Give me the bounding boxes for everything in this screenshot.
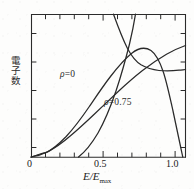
x-axis-title-main: E/E	[83, 170, 100, 182]
y-axis-minor-ticks-left	[32, 34, 37, 148]
rho-value-0: =0	[65, 69, 76, 79]
rho-value-1: =0.75	[109, 97, 132, 107]
x-tick-label-1-0: 1.0	[166, 158, 179, 169]
x-tick-label-0: 0	[27, 158, 32, 169]
data-curves	[31, 14, 186, 157]
x-tick-label-0-5: 0.5	[94, 158, 107, 169]
rho-zero-label: ρ=0	[60, 69, 75, 79]
x-axis-title-subscript: max	[100, 177, 111, 185]
curve-steep-rising-branch	[79, 14, 136, 157]
x-axis-title: E/Emax	[0, 170, 194, 185]
y-axis-minor-ticks-right	[181, 34, 186, 148]
rho-point75-label: ρ=0.75	[104, 97, 132, 107]
figure-container: 電子数 0 0.5 1.0 E/Emax ρ=0 ρ=0.75	[0, 0, 194, 189]
plot-frame	[31, 14, 186, 158]
x-axis-minor-ticks-bottom	[46, 151, 176, 157]
y-axis-title: 電子数	[8, 56, 22, 86]
x-axis-minor-ticks-top	[46, 15, 176, 21]
